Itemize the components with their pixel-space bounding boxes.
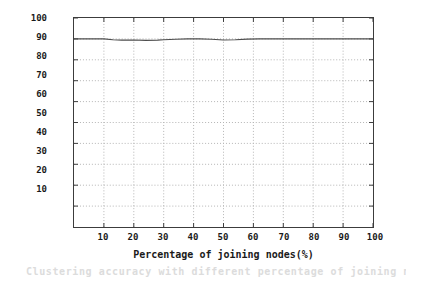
plot-area: [73, 17, 374, 228]
y-tick-label-100: 100: [13, 14, 47, 23]
y-tick-label-70: 70: [13, 71, 47, 80]
x-axis-label: Percentage of joining nodes(%): [73, 249, 374, 261]
x-tick-label-100: 100: [355, 233, 395, 242]
y-tick-label-50: 50: [13, 109, 47, 118]
y-tick-label-80: 80: [13, 52, 47, 61]
y-tick-label-60: 60: [13, 90, 47, 99]
figure-caption-ghost: Clustering accuracy with different perce…: [26, 266, 406, 278]
y-tick-label-90: 90: [13, 33, 47, 42]
y-tick-label-20: 20: [13, 166, 47, 175]
y-tick-label-30: 30: [13, 147, 47, 156]
chart-figure: Clustering accuracy(%) 100 90 80 70 60 5…: [0, 0, 426, 282]
data-series-line: [74, 18, 373, 227]
y-tick-label-40: 40: [13, 128, 47, 137]
y-tick-label-10: 10: [13, 185, 47, 194]
